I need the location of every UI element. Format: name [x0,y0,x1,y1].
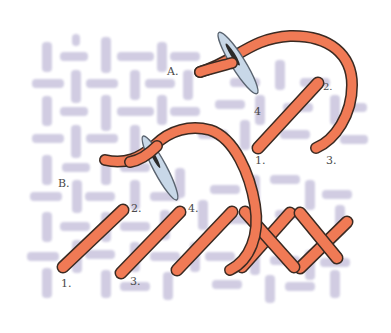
section-b-number-4: 4. [188,203,199,214]
section-a-number-3: 3. [326,155,337,166]
section-a-label: A. [167,66,178,77]
section-b-number-2: 2. [131,203,142,214]
section-b-number-1: 1. [61,278,72,289]
section-a-number-2: 2. [323,82,333,92]
section-b-thread [105,128,256,270]
section-a-number-1: 1. [255,155,266,166]
section-b-number-3: 3. [130,276,141,287]
section-a-number-4: 4 [254,106,261,117]
section-b-label: B. [58,178,70,189]
stitch-illustration: A. 4 2. 1. 3. B. 2. 4. 1. 3. [0,0,391,333]
